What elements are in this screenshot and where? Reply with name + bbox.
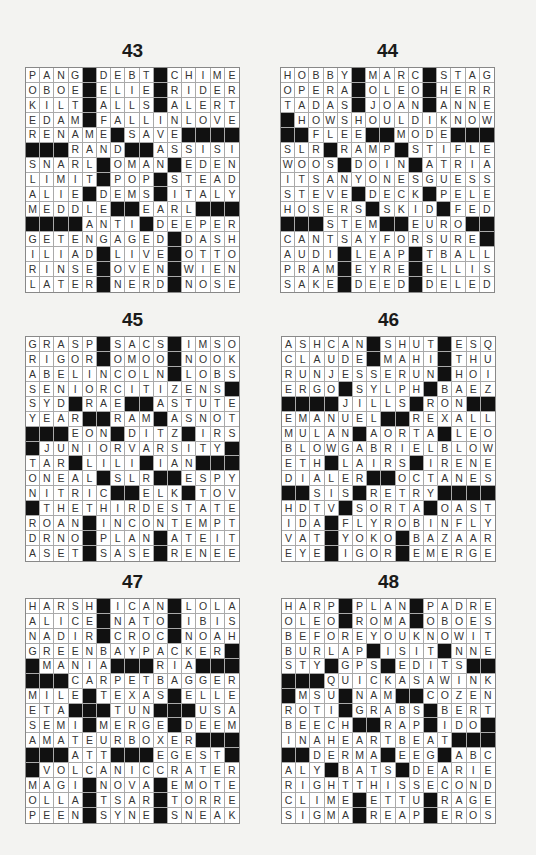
letter-cell: T bbox=[140, 382, 154, 397]
black-cell bbox=[83, 546, 97, 561]
letter-cell: U bbox=[410, 793, 424, 808]
black-cell bbox=[309, 217, 323, 232]
black-cell bbox=[295, 128, 309, 143]
letter-cell: Y bbox=[296, 546, 310, 561]
letter-cell: H bbox=[467, 352, 481, 367]
letter-cell: O bbox=[309, 113, 323, 128]
letter-cell: O bbox=[366, 83, 380, 98]
letter-cell: A bbox=[324, 98, 338, 113]
black-cell bbox=[211, 128, 225, 143]
black-cell bbox=[325, 763, 339, 778]
letter-cell: E bbox=[424, 412, 438, 427]
letter-cell: L bbox=[296, 352, 310, 367]
letter-cell: R bbox=[452, 763, 466, 778]
letter-cell: O bbox=[452, 778, 466, 793]
letter-cell: R bbox=[111, 733, 125, 748]
letter-cell: L bbox=[54, 98, 68, 113]
letter-cell: E bbox=[437, 277, 451, 292]
black-cell bbox=[26, 143, 40, 158]
black-cell bbox=[83, 689, 97, 704]
letter-cell: E bbox=[140, 486, 154, 501]
letter-cell: I bbox=[282, 733, 296, 748]
letter-cell: A bbox=[353, 763, 367, 778]
letter-cell: H bbox=[437, 83, 451, 98]
letter-cell: D bbox=[480, 277, 494, 292]
letter-cell: E bbox=[182, 516, 196, 531]
letter-cell: R bbox=[282, 704, 296, 719]
letter-cell: A bbox=[438, 763, 452, 778]
black-cell bbox=[353, 486, 367, 501]
letter-cell: E bbox=[325, 748, 339, 763]
black-cell bbox=[339, 614, 353, 629]
black-cell bbox=[396, 689, 410, 704]
black-cell bbox=[466, 128, 480, 143]
letter-cell: E bbox=[225, 778, 239, 793]
letter-cell: E bbox=[54, 808, 68, 823]
black-cell bbox=[83, 412, 97, 427]
letter-cell: L bbox=[467, 412, 481, 427]
letter-cell: E bbox=[424, 778, 438, 793]
letter-cell: P bbox=[437, 187, 451, 202]
letter-cell: E bbox=[481, 456, 495, 471]
letter-cell: A bbox=[26, 187, 40, 202]
letter-cell: U bbox=[410, 367, 424, 382]
letter-cell: M bbox=[97, 718, 111, 733]
letter-cell: E bbox=[69, 427, 83, 442]
letter-cell: C bbox=[69, 674, 83, 689]
letter-cell: N bbox=[83, 644, 97, 659]
letter-cell: U bbox=[396, 629, 410, 644]
letter-cell: E bbox=[168, 778, 182, 793]
letter-cell: E bbox=[395, 262, 409, 277]
letter-cell: R bbox=[437, 217, 451, 232]
letter-cell: A bbox=[295, 98, 309, 113]
letter-cell: I bbox=[40, 173, 54, 188]
letter-cell: L bbox=[54, 689, 68, 704]
letter-cell: I bbox=[125, 763, 139, 778]
letter-cell: E bbox=[338, 128, 352, 143]
letter-cell: L bbox=[295, 143, 309, 158]
letter-cell: L bbox=[481, 412, 495, 427]
letter-cell: V bbox=[154, 128, 168, 143]
letter-cell: T bbox=[83, 173, 97, 188]
black-cell bbox=[282, 486, 296, 501]
letter-cell: S bbox=[380, 202, 394, 217]
letter-cell: A bbox=[310, 733, 324, 748]
letter-cell: A bbox=[451, 247, 465, 262]
letter-cell: T bbox=[424, 337, 438, 352]
letter-cell: E bbox=[196, 718, 210, 733]
letter-cell: E bbox=[225, 113, 239, 128]
letter-cell: I bbox=[325, 486, 339, 501]
letter-cell: N bbox=[309, 232, 323, 247]
letter-cell: T bbox=[182, 531, 196, 546]
letter-cell: L bbox=[182, 98, 196, 113]
letter-cell: N bbox=[182, 277, 196, 292]
letter-cell: H bbox=[367, 778, 381, 793]
letter-cell: W bbox=[452, 629, 466, 644]
black-cell bbox=[225, 733, 239, 748]
letter-cell: P bbox=[83, 337, 97, 352]
letter-cell: N bbox=[97, 427, 111, 442]
black-cell bbox=[225, 644, 239, 659]
letter-cell: E bbox=[225, 689, 239, 704]
letter-cell: I bbox=[381, 778, 395, 793]
black-cell bbox=[168, 599, 182, 614]
letter-cell: M bbox=[225, 718, 239, 733]
crossword-grid: HARPPLANPADREOLEOROMAOBOESBEFOREYOUKNOWI… bbox=[281, 598, 496, 824]
black-cell bbox=[338, 262, 352, 277]
letter-cell: A bbox=[54, 158, 68, 173]
letter-cell: T bbox=[481, 704, 495, 719]
letter-cell: M bbox=[140, 412, 154, 427]
letter-cell: I bbox=[168, 659, 182, 674]
letter-cell: H bbox=[83, 599, 97, 614]
letter-cell: L bbox=[211, 599, 225, 614]
letter-cell: O bbox=[154, 352, 168, 367]
letter-cell: E bbox=[182, 748, 196, 763]
letter-cell: H bbox=[281, 202, 295, 217]
letter-cell: E bbox=[296, 718, 310, 733]
letter-cell: S bbox=[309, 202, 323, 217]
letter-cell: A bbox=[83, 143, 97, 158]
letter-cell: O bbox=[366, 173, 380, 188]
letter-cell: V bbox=[325, 501, 339, 516]
letter-cell: I bbox=[325, 704, 339, 719]
letter-cell: H bbox=[339, 718, 353, 733]
